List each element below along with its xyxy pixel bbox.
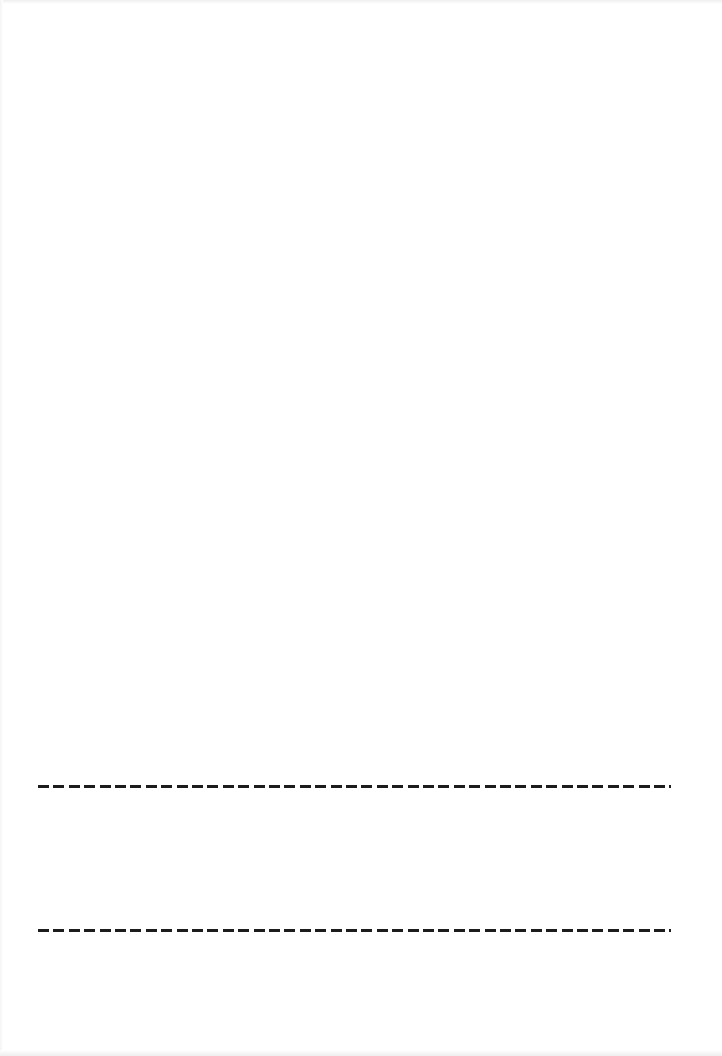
line-1-text	[40, 765, 670, 783]
dashed-rule-1	[38, 785, 671, 788]
line-2-text	[40, 909, 670, 927]
dashed-rule-2	[38, 929, 671, 932]
scan-edge-left	[0, 0, 3, 1056]
scan-edge-top	[0, 0, 722, 4]
document-page	[0, 0, 722, 1056]
scan-edge-bottom	[0, 1050, 722, 1056]
